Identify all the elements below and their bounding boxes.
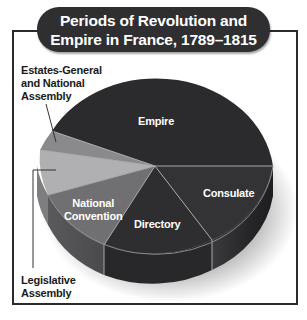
label-empire: Empire (138, 115, 174, 128)
label-legislative-assembly: Legislative Assembly (21, 274, 76, 300)
title-line-2: Empire in France, 1789–1815 (37, 30, 270, 49)
label-estates-general: Estates-General and National Assembly (21, 64, 102, 103)
label-national-convention: National Convention (64, 197, 123, 223)
title-line-1: Periods of Revolution and (37, 11, 270, 30)
label-consulate: Consulate (203, 187, 254, 200)
chart-title: Periods of Revolution and Empire in Fran… (37, 7, 270, 52)
label-directory: Directory (134, 218, 181, 231)
